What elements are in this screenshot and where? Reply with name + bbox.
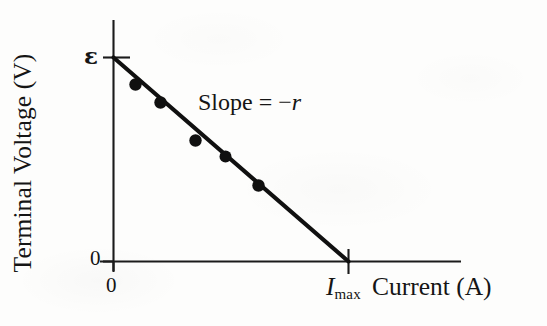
data-point (220, 151, 232, 163)
slope-annotation: Slope = −r (198, 90, 301, 114)
imax-symbol: I (326, 272, 335, 301)
data-point (189, 134, 201, 146)
y-axis-tick-label-zero: 0 (90, 248, 101, 269)
figure-root: Terminal Voltage (V) ε 0 0 ImaxCurrent (… (0, 0, 547, 326)
x-axis-title-text: Current (A) (372, 274, 492, 300)
y-axis-tick-label-epsilon: ε (84, 44, 98, 67)
slope-annotation-symbol: r (292, 89, 301, 115)
data-point (154, 96, 166, 108)
data-point (252, 179, 264, 191)
x-axis-title: ImaxCurrent (A) (326, 274, 492, 300)
data-point (129, 78, 141, 90)
imax-subscript: max (335, 286, 361, 302)
x-axis-tick-label-zero: 0 (106, 275, 117, 296)
y-axis-title: Terminal Voltage (V) (0, 0, 46, 326)
slope-annotation-prefix: Slope = − (198, 89, 292, 115)
x-axis-tick-label-imax: Imax (326, 274, 361, 300)
